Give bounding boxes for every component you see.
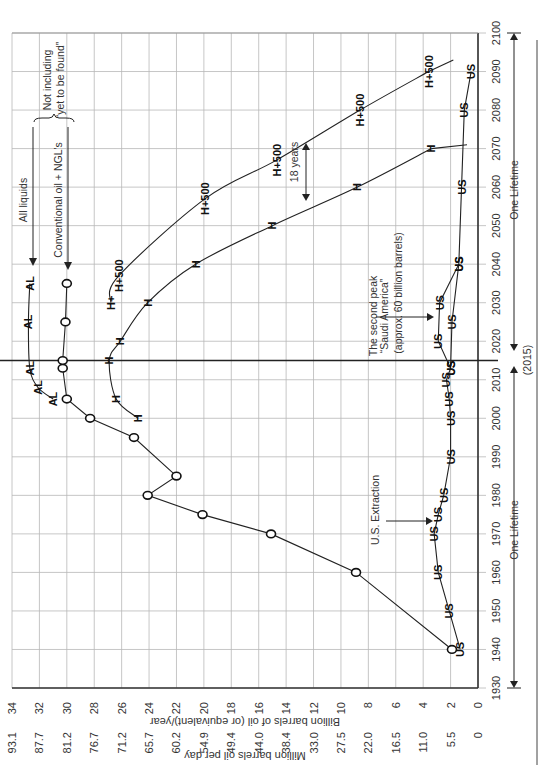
x-tick: 2100 bbox=[490, 21, 502, 45]
marker-label: US bbox=[445, 449, 457, 464]
x-tick: 2060 bbox=[490, 175, 502, 199]
marker-label: AL bbox=[24, 361, 36, 376]
axis-ticks: 0025.5411.0616.5822.01027.51233.01438.41… bbox=[6, 21, 502, 754]
x-tick: 1940 bbox=[490, 637, 502, 661]
y-tick-secondary: 76.7 bbox=[88, 732, 100, 753]
annotation-second-peak-2: “Saudi America” bbox=[378, 278, 390, 353]
y-tick-secondary: 60.2 bbox=[170, 732, 182, 753]
annotation-all-liquids: All liquids bbox=[17, 178, 29, 222]
marker-circle bbox=[143, 492, 152, 500]
marker-label: US bbox=[432, 334, 444, 349]
x-tick: 1960 bbox=[490, 560, 502, 584]
marker-label: H+500 bbox=[354, 94, 366, 127]
marker-circle bbox=[62, 280, 71, 288]
y-tick-primary: 28 bbox=[88, 702, 100, 714]
marker-label: H bbox=[103, 356, 115, 364]
marker-label: AL bbox=[22, 314, 34, 329]
marker-label: AL bbox=[47, 391, 59, 406]
y-tick-secondary: 81.2 bbox=[61, 732, 73, 753]
annotation-second-peak-3: (approx. 60 billion barrels) bbox=[392, 232, 404, 353]
marker-label: US bbox=[456, 179, 468, 194]
marker-label: H bbox=[142, 299, 154, 307]
x-tick: 2080 bbox=[490, 98, 502, 122]
x-tick: 1970 bbox=[490, 522, 502, 546]
x-tick: 2010 bbox=[490, 368, 502, 392]
x-tick: 2040 bbox=[490, 252, 502, 276]
marker-circle bbox=[58, 357, 67, 365]
y-tick-secondary: 87.7 bbox=[33, 732, 45, 753]
y-tick-secondary: 93.1 bbox=[6, 732, 18, 753]
marker-label: US bbox=[458, 102, 470, 117]
y-tick-primary: 14 bbox=[280, 702, 292, 714]
y-tick-primary: 4 bbox=[417, 702, 429, 708]
marker-label: US bbox=[432, 565, 444, 580]
marker-label: US bbox=[438, 488, 450, 503]
marker-label: H+500 bbox=[199, 182, 211, 215]
y-axis-title-secondary: Million barrels oil per day bbox=[184, 750, 306, 762]
marker-label: H bbox=[266, 222, 278, 230]
marker-label: H+ bbox=[105, 296, 117, 310]
marker-label: AL bbox=[32, 380, 44, 395]
annotation-one-lifetime-future: One Lifetime bbox=[508, 160, 520, 220]
y-tick-primary: 12 bbox=[308, 702, 320, 714]
annotation-18-years: 18 years bbox=[288, 142, 300, 182]
marker-label: H+500 bbox=[423, 55, 435, 88]
annotation-us-extraction: U.S. Extraction bbox=[369, 475, 381, 545]
y-tick-secondary: 0 bbox=[472, 732, 484, 738]
x-tick: 1980 bbox=[490, 483, 502, 507]
oil-production-chart: 0025.5411.0616.5822.01027.51233.01438.41… bbox=[0, 0, 547, 771]
marker-label: H bbox=[132, 414, 144, 422]
y-axis-title-primary: Billion barrels of oil (or equivalent)/y… bbox=[150, 716, 340, 728]
marker-label: H bbox=[190, 260, 202, 268]
y-tick-primary: 20 bbox=[198, 702, 210, 714]
y-tick-primary: 26 bbox=[116, 702, 128, 714]
marker-label: H bbox=[110, 395, 122, 403]
marker-label: H bbox=[351, 183, 363, 191]
y-tick-primary: 16 bbox=[253, 702, 265, 714]
x-tick: 1990 bbox=[490, 445, 502, 469]
marker-circle bbox=[61, 318, 70, 326]
marker-label: H+500 bbox=[271, 144, 283, 177]
y-tick-primary: 24 bbox=[143, 702, 155, 714]
marker-label: US bbox=[434, 295, 446, 310]
y-tick-primary: 8 bbox=[362, 702, 374, 708]
y-tick-secondary: 5.5 bbox=[445, 732, 457, 747]
marker-circle bbox=[172, 472, 181, 480]
y-tick-primary: 32 bbox=[33, 702, 45, 714]
marker-circle bbox=[58, 364, 67, 372]
marker-label: US bbox=[445, 361, 457, 376]
x-tick: 2050 bbox=[490, 213, 502, 237]
marker-label: H+500 bbox=[113, 259, 125, 292]
y-tick-primary: 34 bbox=[6, 702, 18, 714]
y-tick-secondary: 71.2 bbox=[116, 732, 128, 753]
marker-label: US bbox=[443, 391, 455, 406]
annotation-not-including-1: Not including bbox=[41, 49, 53, 110]
marker-label: US bbox=[446, 314, 458, 329]
annotation-2015: (2015) bbox=[521, 345, 533, 375]
y-tick-primary: 18 bbox=[225, 702, 237, 714]
x-tick: 2000 bbox=[490, 406, 502, 430]
y-tick-secondary: 33.0 bbox=[308, 732, 320, 753]
y-tick-secondary: 22.0 bbox=[362, 732, 374, 753]
x-tick: 2090 bbox=[490, 59, 502, 83]
y-tick-secondary: 16.5 bbox=[390, 732, 402, 753]
marker-label: US bbox=[465, 64, 477, 79]
marker-label: US bbox=[454, 642, 466, 657]
y-tick-secondary: 27.5 bbox=[335, 732, 347, 753]
y-tick-primary: 2 bbox=[445, 702, 457, 708]
data-markers: ALALALALALHHHHHHHHHH+H+500H+500H+500H+50… bbox=[22, 55, 477, 657]
marker-circle bbox=[62, 395, 71, 403]
marker-label: US bbox=[428, 526, 440, 541]
x-tick: 2030 bbox=[490, 290, 502, 314]
y-tick-secondary: 65.7 bbox=[143, 732, 155, 753]
marker-circle bbox=[198, 511, 207, 519]
y-tick-primary: 22 bbox=[170, 702, 182, 714]
marker-label: US bbox=[453, 257, 465, 272]
y-tick-primary: 0 bbox=[472, 702, 484, 708]
marker-label: US bbox=[445, 411, 457, 426]
marker-label: H bbox=[425, 145, 437, 153]
annotation-one-lifetime-past: One Lifetime bbox=[508, 500, 520, 560]
marker-label: H bbox=[114, 337, 126, 345]
x-tick: 1930 bbox=[490, 676, 502, 700]
marker-circle bbox=[267, 530, 276, 538]
